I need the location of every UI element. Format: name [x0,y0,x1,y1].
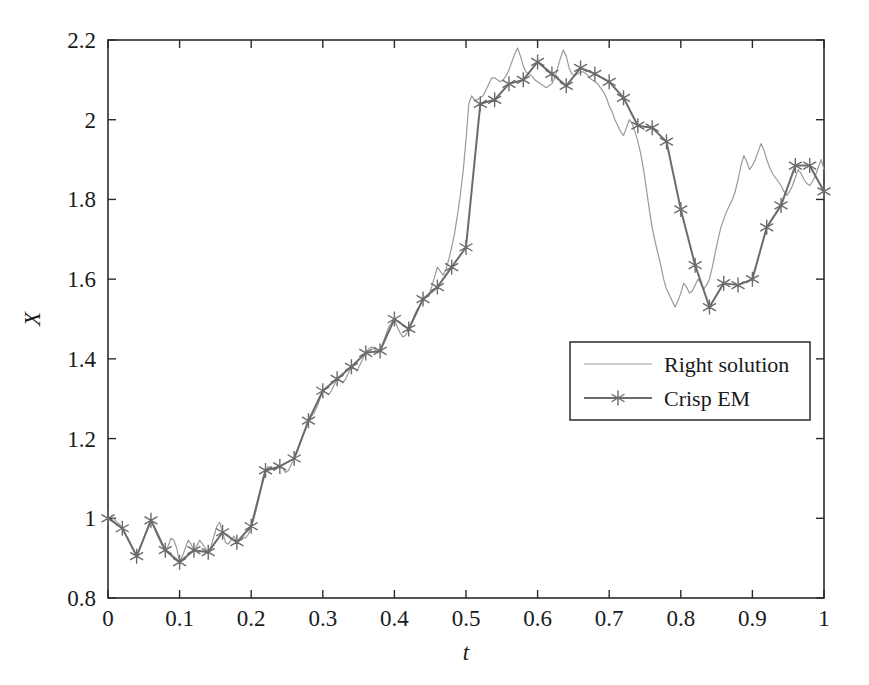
x-tick-label: 0 [102,606,114,631]
x-tick-label: 0.4 [380,606,409,631]
x-tick-label: 1 [818,606,830,631]
y-tick-label: 2 [85,108,97,133]
y-tick-label: 1 [85,506,97,531]
chart-legend[interactable]: Right solutionCrisp EM [570,342,810,420]
series-crisp-em [102,54,831,569]
x-tick-label: 0.3 [308,606,337,631]
y-axis-label: X [20,311,45,327]
plot-frame [108,40,824,598]
x-axis-label: t [463,640,470,665]
legend-label: Crisp EM [664,386,750,411]
y-tick-label: 1.6 [67,267,96,292]
line-chart: 00.10.20.30.40.50.60.70.80.910.811.21.41… [0,0,869,685]
data-series [102,48,831,570]
series-line [108,48,824,562]
y-tick-label: 0.8 [67,586,96,611]
axes-border [108,40,824,598]
y-tick-label: 1.2 [67,427,96,452]
y-tick-label: 1.8 [67,187,96,212]
y-tick-label: 1.4 [67,347,96,372]
series-right-solution [108,48,824,562]
figure-container: 00.10.20.30.40.50.60.70.80.910.811.21.41… [0,0,869,685]
series-markers [102,54,831,569]
x-tick-label: 0.9 [738,606,767,631]
x-tick-label: 0.6 [523,606,552,631]
x-tick-label: 0.5 [452,606,481,631]
x-tick-label: 0.8 [666,606,695,631]
axis-ticks [108,40,824,598]
x-tick-label: 0.2 [237,606,266,631]
y-tick-label: 2.2 [67,28,96,53]
x-tick-label: 0.1 [165,606,194,631]
axis-tick-labels: 00.10.20.30.40.50.60.70.80.910.811.21.41… [67,28,830,631]
x-tick-label: 0.7 [595,606,624,631]
legend-label: Right solution [664,352,789,377]
